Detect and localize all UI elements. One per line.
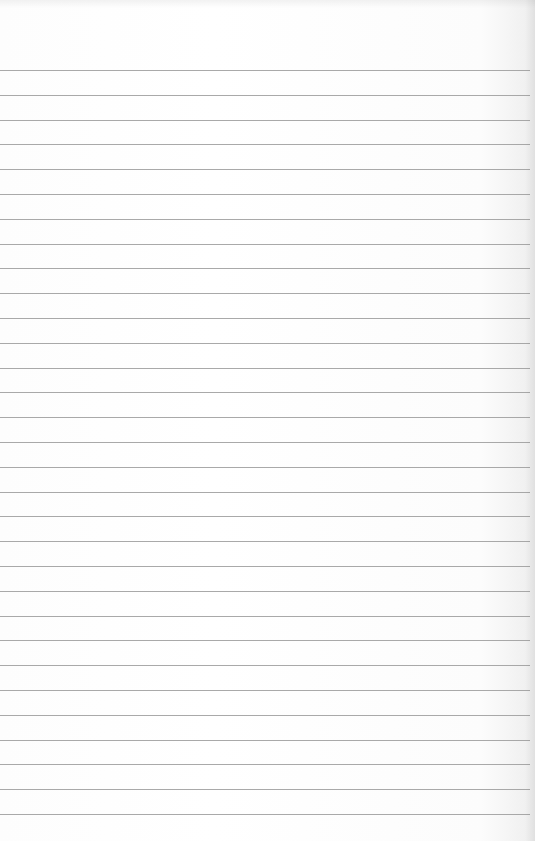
- ruled-line: [0, 764, 530, 765]
- right-edge-shadow: [525, 0, 535, 841]
- ruled-line: [0, 789, 530, 790]
- ruled-line: [0, 293, 530, 294]
- ruled-line: [0, 120, 530, 121]
- ruled-line: [0, 244, 530, 245]
- ruled-line: [0, 690, 530, 691]
- ruled-line: [0, 392, 530, 393]
- ruled-line: [0, 417, 530, 418]
- ruled-line: [0, 541, 530, 542]
- ruled-line: [0, 268, 530, 269]
- ruled-line: [0, 715, 530, 716]
- ruled-line: [0, 591, 530, 592]
- lined-paper-page: [0, 0, 535, 841]
- ruled-line: [0, 492, 530, 493]
- ruled-line: [0, 665, 530, 666]
- ruled-line: [0, 169, 530, 170]
- top-edge-shadow: [0, 0, 535, 8]
- ruled-line: [0, 814, 530, 815]
- ruled-line: [0, 616, 530, 617]
- ruled-line: [0, 442, 530, 443]
- ruled-line: [0, 467, 530, 468]
- ruled-line: [0, 194, 530, 195]
- ruled-line: [0, 516, 530, 517]
- ruled-line: [0, 640, 530, 641]
- ruled-line: [0, 70, 530, 71]
- ruled-line: [0, 318, 530, 319]
- ruled-line: [0, 95, 530, 96]
- ruled-line: [0, 343, 530, 344]
- ruled-line: [0, 566, 530, 567]
- ruled-line: [0, 144, 530, 145]
- ruled-line: [0, 368, 530, 369]
- ruled-line: [0, 219, 530, 220]
- ruled-line: [0, 740, 530, 741]
